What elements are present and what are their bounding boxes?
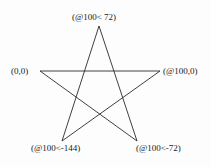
vertex-label-right: (@100,0): [163, 66, 198, 76]
vertex-label-left: (0,0): [11, 66, 28, 76]
edge-top-to-bottom-right: [99, 26, 137, 141]
edge-left-to-bottom-right: [40, 71, 137, 141]
vertex-label-bottom-right: (@100<-72): [136, 143, 181, 153]
vertex-label-top: (@100< 72): [72, 12, 116, 22]
edge-right-to-bottom-left: [62, 71, 160, 141]
edge-top-to-bottom-left: [62, 26, 99, 141]
vertex-label-bottom-left: (@100<-144): [31, 143, 80, 153]
star-drawing: [0, 0, 211, 167]
pentagram-diagram: (@100< 72) (0,0) (@100,0) (@100<-144) (@…: [0, 0, 211, 167]
